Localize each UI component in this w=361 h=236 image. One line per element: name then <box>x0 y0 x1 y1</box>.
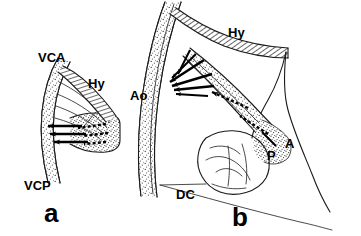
label-dc: DC <box>176 187 195 202</box>
label-ao: Ao <box>130 88 147 103</box>
label-vca: VCA <box>38 50 66 65</box>
label-p: P <box>267 148 276 163</box>
label-hy-b: Hy <box>228 25 245 40</box>
panel-label-b: b <box>232 202 248 232</box>
anatomical-figure: VCA Hy VCP a <box>0 0 361 236</box>
label-hy-a: Hy <box>88 76 105 91</box>
panel-label-a: a <box>44 198 59 228</box>
confluence-body-stipple <box>70 113 120 152</box>
figure-canvas: VCA Hy VCP a <box>0 0 361 236</box>
label-a: A <box>285 136 295 151</box>
label-vcp: VCP <box>24 178 51 193</box>
